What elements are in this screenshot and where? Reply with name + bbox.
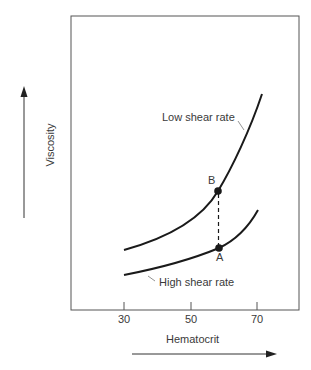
arrow-up-icon: [21, 86, 28, 97]
plot-frame: [71, 16, 299, 310]
high-shear-rate-label: High shear rate: [159, 276, 234, 288]
x-tick-label-70: 70: [251, 313, 263, 325]
y-axis-label: Viscosity: [44, 120, 56, 170]
point-a-label: A: [216, 251, 223, 263]
x-tick-label-30: 30: [118, 313, 130, 325]
x-tick-label-50: 50: [185, 313, 197, 325]
point-b-label: B: [208, 174, 215, 186]
low-shear-leader-line: [238, 121, 244, 130]
low-shear-rate-label: Low shear rate: [162, 111, 235, 123]
point-b-marker: [214, 187, 222, 195]
viscosity-hematocrit-chart: [0, 0, 311, 370]
x-axis-label: Hematocrit: [166, 333, 219, 345]
high-shear-leader-line: [148, 276, 155, 281]
arrow-right-icon: [266, 351, 277, 358]
